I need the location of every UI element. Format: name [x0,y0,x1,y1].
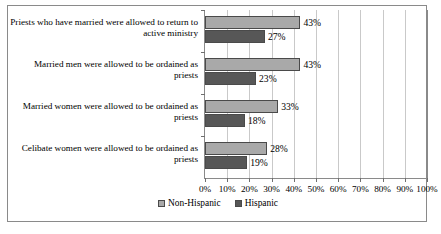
bar-non-hispanic [205,142,267,155]
legend-swatch-icon [158,200,165,207]
category-label: Married men were allowed to be ordained … [10,59,198,82]
x-axis-tick [360,178,361,182]
chart-figure: Priests who have married were allowed to… [7,5,427,222]
bar-non-hispanic [205,16,300,29]
bar-non-hispanic [205,58,300,71]
x-axis-tick [205,178,206,182]
x-axis-tick [405,178,406,182]
bar-non-hispanic [205,100,278,113]
x-axis-tick [272,178,273,182]
legend-item[interactable]: Hispanic [235,198,278,208]
bar-value-label: 33% [281,100,299,113]
bar-value-label: 23% [259,72,277,85]
bar-value-label: 27% [268,30,286,43]
chart-legend: Non-HispanicHispanic [8,198,428,208]
legend-swatch-icon [235,200,242,207]
bar-group: 28%19% [205,136,427,178]
bar-hispanic [205,114,245,127]
bar-value-label: 43% [303,58,321,71]
plot-wrapper: Priests who have married were allowed to… [8,6,428,186]
x-axis-tick [383,178,384,182]
bar-value-label: 19% [250,156,268,169]
category-axis-labels: Priests who have married were allowed to… [10,10,198,178]
x-axis-tick [227,178,228,182]
bar-hispanic [205,156,247,169]
bar-hispanic [205,72,256,85]
x-axis-tick [249,178,250,182]
legend-label: Non-Hispanic [168,198,221,208]
bar-value-label: 28% [270,142,288,155]
category-label: Priests who have married were allowed to… [10,17,198,40]
bar-group: 43%23% [205,52,427,94]
category-label: Married women were allowed to be ordaine… [10,101,198,124]
bar-value-label: 43% [303,16,321,29]
bar-value-label: 18% [248,114,266,127]
x-axis-tick [338,178,339,182]
x-axis-tick [294,178,295,182]
gridline [427,10,428,178]
x-axis-tick-label: 100% [413,184,441,195]
x-axis-tick [427,178,428,182]
x-axis-tick [316,178,317,182]
bar-hispanic [205,30,265,43]
plot-area: 0%10%20%30%40%50%60%70%80%90%100%43%27%4… [204,10,427,179]
legend-label: Hispanic [245,198,278,208]
legend-item[interactable]: Non-Hispanic [158,198,221,208]
bar-group: 33%18% [205,94,427,136]
bar-group: 43%27% [205,10,427,52]
category-label: Celibate women were allowed to be ordain… [10,143,198,166]
